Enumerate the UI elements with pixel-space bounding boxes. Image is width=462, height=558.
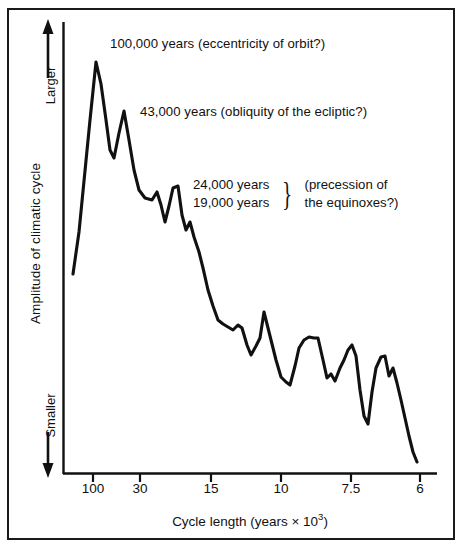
x-tick-label-5: 6 bbox=[400, 481, 440, 496]
x-tick-label-4: 7.5 bbox=[331, 481, 371, 496]
y-axis-arrow-down bbox=[43, 432, 54, 478]
x-tick-label-0: 100 bbox=[73, 481, 113, 496]
x-tick-label-1: 30 bbox=[120, 481, 160, 496]
x-axis-title: Cycle length (years × 103) bbox=[63, 511, 437, 529]
x-axis-title-tail: ) bbox=[323, 514, 328, 529]
chart-plot-area bbox=[0, 0, 462, 558]
x-tick-label-2: 15 bbox=[191, 481, 231, 496]
y-axis-arrow-up bbox=[43, 19, 54, 78]
x-axis-title-main: Cycle length (years × 10 bbox=[172, 514, 318, 529]
x-tick-label-3: 10 bbox=[261, 481, 301, 496]
figure-container: Amplitude of climatic cycle Larger Small… bbox=[0, 0, 462, 558]
data-series-line bbox=[73, 62, 417, 462]
